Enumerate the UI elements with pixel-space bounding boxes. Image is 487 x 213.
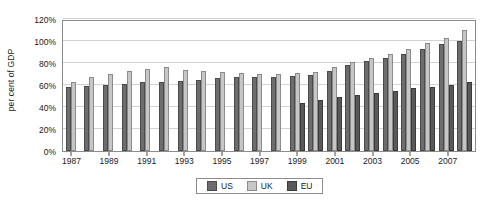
bar-uk: [127, 71, 132, 151]
bar-group: [306, 21, 325, 151]
legend-item-us[interactable]: US: [207, 181, 233, 191]
y-tick-label: 80%: [39, 59, 56, 69]
chart-legend: USUKEU: [196, 178, 323, 194]
bar-group: [176, 21, 195, 151]
bar-group: [250, 21, 269, 151]
bar-uk: [183, 70, 188, 151]
y-tick-label: 20%: [39, 125, 56, 135]
bar-group: [362, 21, 381, 151]
x-tick-label: 1989: [100, 156, 119, 166]
legend-swatch-uk-icon: [247, 181, 257, 191]
bar-eu: [318, 100, 323, 151]
bar-group: [101, 21, 120, 151]
bar-uk: [276, 74, 281, 151]
legend-item-eu[interactable]: EU: [287, 181, 313, 191]
legend-label: UK: [261, 181, 273, 191]
y-tick-label: 0%: [44, 147, 56, 157]
bar-eu: [393, 91, 398, 152]
bar-group: [157, 21, 176, 151]
bar-eu: [337, 97, 342, 151]
bar-group: [213, 21, 232, 151]
x-tick-label: 2005: [401, 156, 420, 166]
bar-uk: [89, 77, 94, 151]
x-axis-tick-labels: 1987198919911993199519971999200120032005…: [62, 156, 476, 172]
y-axis-title-text: per cent of GDP: [6, 49, 16, 111]
legend-swatch-us-icon: [207, 181, 217, 191]
bar-uk: [220, 72, 225, 151]
bar-group: [139, 21, 158, 151]
x-tick-label: 1987: [62, 156, 81, 166]
x-tick-label: 1995: [212, 156, 231, 166]
bar-group: [288, 21, 307, 151]
bar-eu: [300, 103, 305, 151]
bar-group: [120, 21, 139, 151]
bar-group: [83, 21, 102, 151]
plot-area: [62, 20, 476, 152]
bar-uk: [108, 74, 113, 151]
x-tick-label: 1997: [250, 156, 269, 166]
bar-uk: [164, 67, 169, 151]
bar-groups: [63, 21, 475, 151]
bar-group: [325, 21, 344, 151]
bar-group: [381, 21, 400, 151]
bar-uk: [257, 74, 262, 151]
legend-label: US: [221, 181, 233, 191]
bar-uk: [71, 82, 76, 151]
y-tick-label: 120%: [34, 15, 56, 25]
bar-eu: [449, 85, 454, 151]
bar-group: [437, 21, 456, 151]
bar-uk: [239, 73, 244, 151]
bar-group: [194, 21, 213, 151]
x-tick-label: 1999: [288, 156, 307, 166]
bar-uk: [201, 71, 206, 151]
y-axis-tick-labels: 0%20%40%60%80%100%120%: [18, 14, 60, 158]
legend-swatch-eu-icon: [287, 181, 297, 191]
bar-group: [344, 21, 363, 151]
bar-eu: [411, 88, 416, 151]
y-tick-label: 60%: [39, 81, 56, 91]
x-tick-label: 2003: [363, 156, 382, 166]
y-tick-label: 100%: [34, 37, 56, 47]
x-tick-label: 1991: [137, 156, 156, 166]
legend-item-uk[interactable]: UK: [247, 181, 273, 191]
bar-eu: [430, 87, 435, 151]
bar-group: [64, 21, 83, 151]
x-tick-label: 2001: [325, 156, 344, 166]
bar-group: [269, 21, 288, 151]
x-tick-label: 2007: [438, 156, 457, 166]
bar-group: [232, 21, 251, 151]
legend-label: EU: [301, 181, 313, 191]
bar-eu: [355, 95, 360, 151]
x-tick-label: 1993: [175, 156, 194, 166]
bar-eu: [467, 82, 472, 151]
bar-group: [418, 21, 437, 151]
bar-uk: [145, 69, 150, 152]
gridline: [63, 18, 475, 19]
bar-eu: [374, 93, 379, 151]
chart-figure: per cent of GDP 0%20%40%60%80%100%120% 1…: [0, 0, 487, 213]
bar-group: [400, 21, 419, 151]
y-tick-label: 40%: [39, 103, 56, 113]
bar-group: [455, 21, 474, 151]
